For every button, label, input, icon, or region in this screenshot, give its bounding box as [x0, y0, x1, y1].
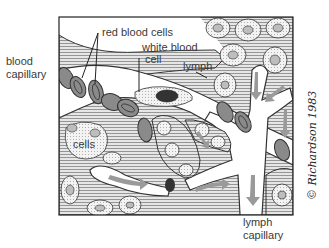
label-red-blood-cells: red blood cells [102, 26, 173, 38]
capillary-diagram: blood capillary red blood cells white bl… [0, 0, 329, 248]
leukocyte-nucleus-lower [165, 178, 175, 192]
tissue-cells-lower-right [266, 168, 293, 215]
label-lymph: lymph [183, 60, 212, 72]
label-lymph-capillary-2: capillary [243, 229, 284, 241]
label-white-blood-cell-2: cell [145, 53, 162, 65]
label-blood-capillary-1: blood [6, 55, 33, 67]
label-lymph-capillary-1: lymph [243, 216, 272, 228]
label-white-blood-cell-1: white blood [141, 41, 198, 53]
label-cells: cells [73, 138, 96, 150]
artist-signature: © Richardson 1983 [306, 91, 319, 200]
label-blood-capillary-2: capillary [6, 68, 47, 80]
